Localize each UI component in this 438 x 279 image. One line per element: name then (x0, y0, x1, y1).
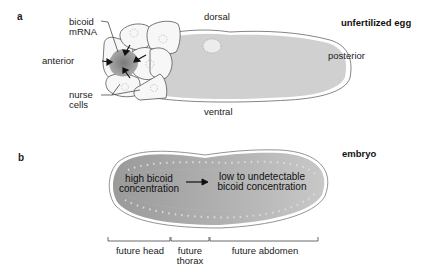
egg-illustration (101, 21, 351, 102)
label-posterior: posterior (328, 51, 365, 61)
panel-b-title: embryo (342, 148, 376, 159)
region-future-abdomen: future abdomen (215, 246, 315, 256)
label-high-bicoid: high bicoid concentration (118, 174, 180, 194)
panel-letter-b: b (18, 152, 24, 163)
label-anterior: anterior (42, 56, 74, 66)
oocyte-nucleus (203, 39, 221, 53)
label-bicoid-mrna: bicoid mRNA (69, 17, 97, 37)
panel-letter-a: a (17, 11, 23, 22)
label-low-bicoid: low to undetectable bicoid concentration (212, 172, 312, 192)
region-future-thorax: future thorax (170, 246, 210, 266)
region-future-head: future head (110, 246, 170, 256)
diagram-graphics (0, 0, 438, 279)
panel-a-title: unfertilized egg (341, 17, 411, 28)
label-ventral: ventral (204, 107, 233, 117)
region-brackets (108, 237, 318, 241)
label-dorsal: dorsal (204, 12, 230, 22)
label-nurse-cells: nurse cells (69, 90, 93, 110)
